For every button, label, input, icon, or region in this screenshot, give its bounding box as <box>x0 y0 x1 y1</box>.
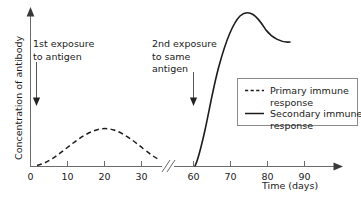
first-exposure-line2: to antigen <box>33 51 94 64</box>
x-tick-label-90: 90 <box>296 172 313 182</box>
x-tick-label-60: 60 <box>185 172 202 182</box>
first-exposure-line1: 1st exposure <box>33 38 94 51</box>
first-exposure-arrow <box>33 62 40 106</box>
second-exposure-line2: to same <box>152 51 217 64</box>
x-tick-label-20: 20 <box>96 172 113 182</box>
x-tick-label-0: 0 <box>22 172 39 182</box>
axis-break-icon <box>162 160 175 172</box>
x-tick-label-80: 80 <box>259 172 276 182</box>
legend-primary-line1: Primary immune <box>270 85 349 97</box>
legend-entry-primary: Primary immune response <box>270 85 349 110</box>
primary-response-curve <box>37 129 158 166</box>
second-exposure-arrow <box>190 72 197 106</box>
x-axis-title: Time (days) <box>262 181 318 191</box>
x-axis-arrowhead <box>334 163 344 171</box>
x-tick-label-10: 10 <box>59 172 76 182</box>
x-tick-label-70: 70 <box>222 172 239 182</box>
y-axis-arrowhead <box>27 7 35 17</box>
legend-secondary-line2: response <box>270 120 361 132</box>
second-exposure-line3: antigen <box>152 63 217 76</box>
second-exposure-line1: 2nd exposure <box>152 38 217 51</box>
legend-entry-secondary: Secondary immune response <box>270 108 361 133</box>
second-exposure-annotation: 2nd exposure to same antigen <box>152 38 217 76</box>
y-axis-title: Concentration of antibody <box>14 36 24 160</box>
legend-secondary-line1: Secondary immune <box>270 108 361 120</box>
first-exposure-annotation: 1st exposure to antigen <box>33 38 94 63</box>
chart-figure: Concentration of antibody Time (days) 0 … <box>0 0 361 197</box>
x-tick-label-30: 30 <box>133 172 150 182</box>
